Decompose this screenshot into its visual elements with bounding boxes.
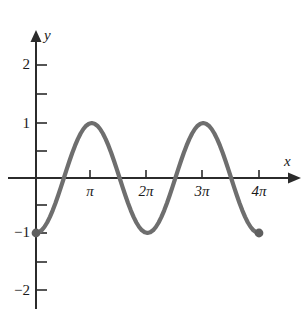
y-tick-label-2: 2 (0, 57, 30, 72)
x-axis-label: x (284, 154, 291, 169)
y-tick-label-1: 1 (0, 116, 30, 131)
x-tick-label-pi: π (70, 184, 110, 199)
graph-figure: y x 2 1 −1 −2 π 2π 3π 4π (0, 0, 307, 309)
y-tick-label-minus-1: −1 (0, 225, 30, 240)
x-tick-label-3pi: 3π (182, 184, 222, 199)
x-axis (8, 173, 301, 184)
y-tick-label-minus-2: −2 (0, 283, 30, 298)
y-axis (31, 30, 42, 309)
x-tick-label-4pi: 4π (239, 184, 279, 199)
plot-canvas (0, 0, 307, 309)
x-tick-label-2pi: 2π (126, 184, 166, 199)
start-point-dot (32, 229, 41, 238)
end-point-dot (255, 229, 264, 238)
y-axis-label: y (44, 28, 51, 43)
